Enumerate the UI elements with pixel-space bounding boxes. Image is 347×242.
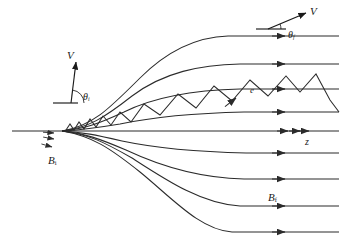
- z-axis-label: z: [305, 137, 309, 147]
- theta-final-subscript: f: [293, 34, 295, 40]
- field-line-below-1: [62, 131, 339, 153]
- physics-diagram: V θi V θf Bi Bf e z: [0, 0, 347, 242]
- electron-zigzag-path: [66, 74, 339, 130]
- theta-initial-subscript: i: [88, 96, 90, 102]
- vector-final-angle-arc: [280, 24, 281, 29]
- field-line-below-2: [62, 131, 339, 179]
- b-initial-label: Bi: [48, 155, 57, 167]
- velocity-final-label: V: [310, 6, 317, 17]
- b-final-subscript: f: [275, 196, 277, 203]
- b-final-symbol: B: [268, 191, 275, 203]
- b-final-label: Bf: [268, 192, 277, 204]
- field-lines-below-axis: [62, 131, 339, 232]
- theta-initial-label: θi: [83, 92, 90, 102]
- field-line-above-1: [62, 112, 339, 131]
- field-line-above-2: [62, 89, 339, 131]
- vector-final-arrow: [268, 13, 306, 29]
- b-initial-subscript: i: [55, 159, 57, 166]
- field-direction-arrowheads: [272, 36, 309, 232]
- field-line-below-3: [62, 131, 339, 206]
- theta-final-label: θf: [288, 30, 295, 40]
- electron-label: e: [250, 86, 254, 95]
- pinch-arrowhead-2: [43, 132, 54, 133]
- velocity-initial-label: V: [67, 50, 74, 61]
- pinch-arrowhead-0: [43, 137, 54, 139]
- electron-helical-orbit: [66, 74, 339, 130]
- vector-initial-arrow: [71, 62, 76, 103]
- b-initial-symbol: B: [48, 154, 55, 166]
- pinch-region-arrowheads: [41, 132, 54, 147]
- field-line-below-4: [62, 131, 339, 232]
- pinch-arrowhead-1: [41, 144, 52, 147]
